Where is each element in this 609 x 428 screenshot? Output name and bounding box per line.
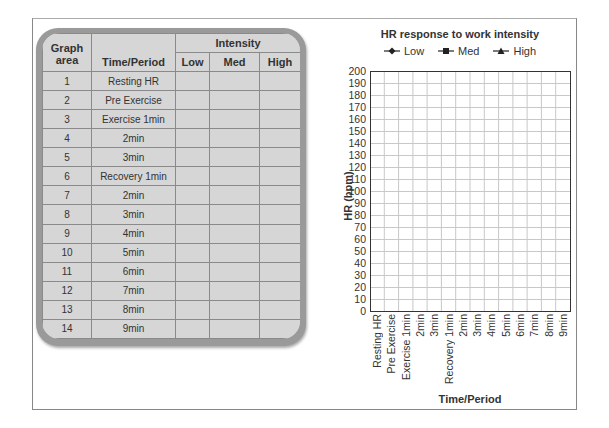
time-period-cell: 2min bbox=[92, 186, 176, 205]
triangle-marker-icon bbox=[493, 47, 509, 55]
legend-item-low: Low bbox=[384, 45, 424, 57]
y-tick-label: 180 bbox=[348, 89, 366, 101]
high-intensity-cell[interactable] bbox=[260, 129, 301, 148]
high-intensity-cell[interactable] bbox=[260, 319, 301, 338]
med-intensity-cell[interactable] bbox=[210, 300, 260, 319]
x-tick-label: 2min bbox=[457, 314, 469, 337]
high-intensity-cell[interactable] bbox=[260, 167, 301, 186]
low-intensity-cell[interactable] bbox=[176, 224, 210, 243]
med-intensity-cell[interactable] bbox=[210, 91, 260, 110]
low-intensity-cell[interactable] bbox=[176, 262, 210, 281]
y-tick-label: 50 bbox=[354, 245, 366, 257]
legend-item-med: Med bbox=[438, 45, 479, 57]
time-period-cell: 5min bbox=[92, 243, 176, 262]
x-tick-label: 7min bbox=[528, 314, 540, 337]
header-time-period: Time/Period bbox=[92, 34, 176, 72]
time-period-cell: 8min bbox=[92, 300, 176, 319]
table-row: 83min bbox=[43, 205, 301, 224]
y-tick-label: 90 bbox=[354, 197, 366, 209]
x-axis-label: Time/Period bbox=[370, 393, 570, 405]
x-tick-label: 3min bbox=[428, 314, 440, 337]
x-axis-ticks: Resting HRPre ExerciseExercise 1min2min3… bbox=[370, 314, 570, 394]
low-intensity-cell[interactable] bbox=[176, 110, 210, 129]
x-tick-label: 8min bbox=[543, 314, 555, 337]
med-intensity-cell[interactable] bbox=[210, 243, 260, 262]
y-tick-label: 110 bbox=[349, 173, 366, 185]
med-intensity-cell[interactable] bbox=[210, 72, 260, 91]
header-graph-area: Graph area bbox=[43, 34, 92, 72]
low-intensity-cell[interactable] bbox=[176, 186, 210, 205]
table-row: 6Recovery 1min bbox=[43, 167, 301, 186]
x-tick-label: Recovery 1min bbox=[443, 314, 455, 384]
low-intensity-cell[interactable] bbox=[176, 281, 210, 300]
y-tick-label: 80 bbox=[354, 209, 366, 221]
y-tick-label: 70 bbox=[354, 221, 366, 233]
time-period-cell: 4min bbox=[92, 224, 176, 243]
low-intensity-cell[interactable] bbox=[176, 300, 210, 319]
med-intensity-cell[interactable] bbox=[210, 167, 260, 186]
time-period-cell: Exercise 1min bbox=[92, 110, 176, 129]
table-row: 149min bbox=[43, 319, 301, 338]
time-period-cell: Resting HR bbox=[92, 72, 176, 91]
low-intensity-cell[interactable] bbox=[176, 167, 210, 186]
header-med: Med bbox=[210, 53, 260, 72]
low-intensity-cell[interactable] bbox=[176, 205, 210, 224]
med-intensity-cell[interactable] bbox=[210, 110, 260, 129]
table-row: 138min bbox=[43, 300, 301, 319]
square-marker-icon bbox=[438, 47, 454, 55]
low-intensity-cell[interactable] bbox=[176, 129, 210, 148]
graph-area-cell: 4 bbox=[43, 129, 92, 148]
high-intensity-cell[interactable] bbox=[260, 186, 301, 205]
low-intensity-cell[interactable] bbox=[176, 91, 210, 110]
y-tick-label: 120 bbox=[348, 161, 366, 173]
time-period-cell: 3min bbox=[92, 148, 176, 167]
x-tick-label: Pre Exercise bbox=[385, 314, 397, 374]
low-intensity-cell[interactable] bbox=[176, 319, 210, 338]
chart-title: HR response to work intensity bbox=[330, 28, 590, 40]
med-intensity-cell[interactable] bbox=[210, 148, 260, 167]
x-tick-label: 3min bbox=[471, 314, 483, 337]
low-intensity-cell[interactable] bbox=[176, 243, 210, 262]
y-tick-label: 160 bbox=[348, 113, 366, 125]
high-intensity-cell[interactable] bbox=[260, 91, 301, 110]
y-tick-label: 40 bbox=[354, 257, 366, 269]
table-row: 53min bbox=[43, 148, 301, 167]
high-intensity-cell[interactable] bbox=[260, 300, 301, 319]
med-intensity-cell[interactable] bbox=[210, 129, 260, 148]
med-intensity-cell[interactable] bbox=[210, 205, 260, 224]
table-row: 3Exercise 1min bbox=[43, 110, 301, 129]
graph-area-cell: 10 bbox=[43, 243, 92, 262]
high-intensity-cell[interactable] bbox=[260, 110, 301, 129]
table-row: 1Resting HR bbox=[43, 72, 301, 91]
table-row: 116min bbox=[43, 262, 301, 281]
high-intensity-cell[interactable] bbox=[260, 72, 301, 91]
med-intensity-cell[interactable] bbox=[210, 319, 260, 338]
y-tick-label: 20 bbox=[354, 281, 366, 293]
header-intensity: Intensity bbox=[176, 34, 301, 53]
med-intensity-cell[interactable] bbox=[210, 186, 260, 205]
graph-area-cell: 2 bbox=[43, 91, 92, 110]
y-tick-label: 100 bbox=[348, 185, 366, 197]
legend-label-low: Low bbox=[404, 45, 424, 57]
low-intensity-cell[interactable] bbox=[176, 148, 210, 167]
high-intensity-cell[interactable] bbox=[260, 205, 301, 224]
high-intensity-cell[interactable] bbox=[260, 262, 301, 281]
graph-area-cell: 7 bbox=[43, 186, 92, 205]
graph-area-cell: 13 bbox=[43, 300, 92, 319]
high-intensity-cell[interactable] bbox=[260, 148, 301, 167]
high-intensity-cell[interactable] bbox=[260, 281, 301, 300]
hr-data-table: Graph area Time/Period Intensity Low Med… bbox=[42, 33, 300, 339]
med-intensity-cell[interactable] bbox=[210, 262, 260, 281]
x-tick-label: Resting HR bbox=[371, 314, 383, 368]
high-intensity-cell[interactable] bbox=[260, 224, 301, 243]
y-tick-label: 0 bbox=[360, 305, 366, 317]
graph-area-cell: 12 bbox=[43, 281, 92, 300]
high-intensity-cell[interactable] bbox=[260, 243, 301, 262]
graph-area-cell: 8 bbox=[43, 205, 92, 224]
y-tick-label: 130 bbox=[348, 149, 366, 161]
x-tick-label: 2min bbox=[414, 314, 426, 337]
table-row: 42min bbox=[43, 129, 301, 148]
med-intensity-cell[interactable] bbox=[210, 281, 260, 300]
med-intensity-cell[interactable] bbox=[210, 224, 260, 243]
low-intensity-cell[interactable] bbox=[176, 72, 210, 91]
